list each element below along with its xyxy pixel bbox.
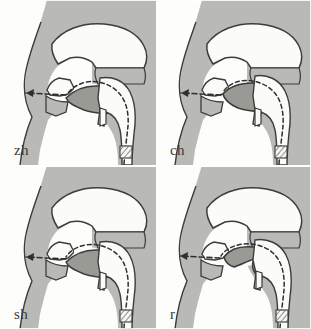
epiglottis-sh: [100, 272, 106, 290]
upper-lip-sh: [47, 242, 74, 260]
lower-lip-zh: [46, 96, 68, 116]
panel-divider-horizontal: [0, 165, 311, 167]
larynx-marker-sh: [120, 310, 132, 322]
epiglottis-ch: [255, 108, 261, 126]
panel-label-zh: zh: [14, 143, 29, 158]
epiglottis-r: [256, 271, 262, 289]
panel-label-ch: ch: [170, 143, 185, 158]
epiglottis-zh: [100, 108, 106, 126]
larynx-marker-zh: [120, 146, 132, 158]
panel-r: r: [156, 165, 311, 329]
larynx-marker-r: [276, 310, 288, 322]
lower-lip-r: [201, 260, 223, 280]
larynx-marker-ch: [275, 146, 287, 158]
panel-zh: zh: [0, 0, 156, 165]
upper-lip-zh: [47, 78, 74, 96]
panel-ch: ch: [156, 0, 311, 165]
sagittal-diagram-figure: zh: [0, 0, 311, 329]
panel-label-sh: sh: [14, 307, 28, 322]
lower-lip-sh: [46, 260, 68, 280]
lower-lip-ch: [201, 96, 223, 116]
panel-label-r: r: [170, 307, 175, 322]
panel-sh: sh: [0, 165, 156, 329]
